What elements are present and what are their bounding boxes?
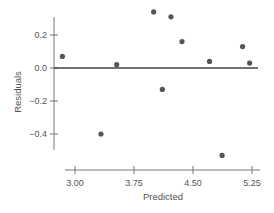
data-point	[168, 14, 173, 19]
x-tick-label: 4.50	[184, 178, 202, 188]
x-axis: 3.003.754.505.25	[65, 166, 261, 188]
y-axis-label: Residuals	[12, 71, 23, 113]
data-point	[98, 131, 103, 136]
y-tick-label: 0.0	[34, 63, 47, 73]
data-point	[60, 54, 65, 59]
data-point	[114, 62, 119, 67]
data-point	[160, 87, 165, 92]
data-point	[207, 59, 212, 64]
data-point	[179, 39, 184, 44]
x-tick-label: 3.75	[125, 178, 143, 188]
y-tick-label: −0.4	[29, 129, 47, 139]
y-axis: 0.20.0−0.2−0.4	[29, 17, 58, 150]
residual-plot: 0.20.0−0.2−0.4 3.003.754.505.25 Residual…	[0, 0, 274, 213]
data-point	[247, 60, 252, 65]
y-tick-label: 0.2	[34, 30, 47, 40]
x-tick-label: 3.00	[66, 178, 84, 188]
x-tick-label: 5.25	[243, 178, 261, 188]
data-point	[240, 44, 245, 49]
data-points	[60, 9, 252, 158]
data-point	[151, 9, 156, 14]
x-axis-label: Predicted	[143, 191, 183, 202]
y-tick-label: −0.2	[29, 96, 47, 106]
data-point	[220, 153, 225, 158]
